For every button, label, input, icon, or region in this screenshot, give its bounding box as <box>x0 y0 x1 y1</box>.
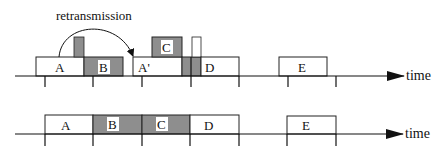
bottom-frame-b-label: B <box>108 117 117 132</box>
top-frame-b: B <box>84 57 123 76</box>
top-frame-a: A <box>36 57 84 76</box>
bottom-frame-a: A <box>45 115 93 134</box>
bottom-timeline: A B C D E time <box>15 115 430 146</box>
top-frame-a-prime: A' <box>133 57 182 76</box>
top-frame-c: C <box>152 37 182 57</box>
bottom-frame-d: D <box>190 115 239 134</box>
bottom-frame-c-label: C <box>157 117 166 132</box>
top-timeline: A B A' C D E <box>15 8 431 87</box>
bottom-frame-a-label: A <box>61 118 71 133</box>
top-collision-bar-1 <box>74 37 84 57</box>
bottom-axis-ticks <box>45 134 336 146</box>
top-frame-e: E <box>279 57 327 76</box>
bottom-frame-c: C <box>142 115 190 134</box>
top-time-label: time <box>406 68 431 83</box>
bottom-frame-b: B <box>93 115 142 134</box>
retransmission-label: retransmission <box>56 8 132 23</box>
top-frame-b-label: B <box>99 60 108 75</box>
bottom-frame-e: E <box>287 116 336 134</box>
top-frame-d-label: D <box>205 60 214 75</box>
retransmission-arrow <box>59 29 133 57</box>
retransmission-timing-diagram: A B A' C D E <box>0 0 446 155</box>
top-frame-a-prime-label: A' <box>138 60 150 75</box>
top-frame-d: D <box>201 57 239 76</box>
top-frame-a-label: A <box>55 60 65 75</box>
top-collision-bar-2 <box>192 37 201 57</box>
bottom-time-label: time <box>405 126 430 141</box>
bottom-frame-e-label: E <box>302 118 310 133</box>
top-frame-e-label: E <box>298 60 306 75</box>
top-frame-c-label: C <box>162 40 171 55</box>
bottom-frame-d-label: D <box>204 118 213 133</box>
